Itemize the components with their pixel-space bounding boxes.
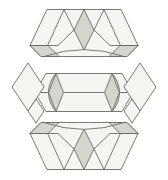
figure-container	[0, 0, 168, 180]
left-corner-piece	[12, 63, 44, 123]
bottom-strip	[30, 123, 138, 170]
middle-strip	[35, 74, 133, 112]
hexagon-dissection-svg	[0, 0, 168, 180]
top-strip	[30, 10, 138, 57]
right-corner-piece	[124, 63, 156, 123]
